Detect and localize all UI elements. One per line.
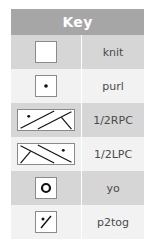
knitting-key-table: Key knit purl 1/2RPC [11, 9, 144, 239]
key-row-knit: knit [11, 35, 144, 69]
symbol-cell [11, 171, 82, 205]
key-label: 1/2RPC [82, 103, 144, 137]
key-label: p2tog [82, 205, 144, 239]
knit-icon [35, 41, 57, 63]
key-label: knit [82, 35, 144, 69]
key-row-yo: yo [11, 171, 144, 205]
left-purl-cross-icon [17, 143, 75, 165]
key-label: purl [82, 69, 144, 103]
right-purl-cross-icon [17, 109, 75, 131]
symbol-cell [11, 35, 82, 69]
p2tog-icon [35, 211, 57, 233]
key-title: Key [11, 9, 144, 35]
symbol-cell [11, 69, 82, 103]
key-row-1-2rpc: 1/2RPC [11, 103, 144, 137]
key-label: yo [82, 171, 144, 205]
key-row-purl: purl [11, 69, 144, 103]
yarn-over-icon [35, 177, 57, 199]
symbol-cell [11, 205, 82, 239]
key-label: 1/2LPC [82, 137, 144, 171]
purl-dot-icon [35, 75, 57, 97]
symbol-cell [11, 137, 82, 171]
symbol-cell [11, 103, 82, 137]
key-row-1-2lpc: 1/2LPC [11, 137, 144, 171]
key-row-p2tog: p2tog [11, 205, 144, 239]
